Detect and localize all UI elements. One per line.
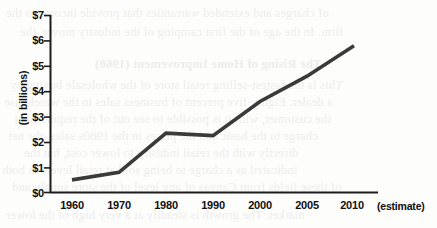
chart-plot-area [0, 0, 437, 228]
chart-page: of charges and extended warranties that … [0, 0, 437, 228]
data-series-line [72, 46, 354, 180]
